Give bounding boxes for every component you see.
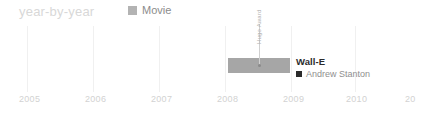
axis-tick-2008: 2008 xyxy=(217,94,238,104)
legend: Movie xyxy=(128,5,171,16)
gridline xyxy=(93,26,94,92)
square-swatch-icon xyxy=(128,6,137,15)
gridline xyxy=(291,26,292,92)
axis-tick-2009: 2009 xyxy=(283,94,304,104)
gridline xyxy=(159,26,160,92)
annotation-title: Wall-E xyxy=(296,56,370,67)
annotation-subtitle: Andrew Stanton xyxy=(306,69,370,79)
axis-tick-2005: 2005 xyxy=(19,94,40,104)
gridline xyxy=(225,26,226,92)
axis-tick-2007: 2007 xyxy=(151,94,172,104)
page-title: year-by-year xyxy=(19,4,94,19)
axis-tick-2006: 2006 xyxy=(85,94,106,104)
point-annotation: Wall-E Andrew Stanton xyxy=(296,56,370,79)
axis-tick-2010: 2010 xyxy=(346,94,367,104)
legend-item-label: Movie xyxy=(142,5,171,16)
axis-tick-2011-truncated: 20 xyxy=(405,94,416,104)
gridline xyxy=(27,26,28,92)
award-label: Hugo Award xyxy=(256,9,262,44)
square-marker-icon xyxy=(296,71,302,77)
year-by-year-chart: year-by-year Movie Hugo Award Wall-E And… xyxy=(0,0,423,119)
award-anchor-dot xyxy=(258,64,261,67)
annotation-subtitle-row: Andrew Stanton xyxy=(296,69,370,79)
